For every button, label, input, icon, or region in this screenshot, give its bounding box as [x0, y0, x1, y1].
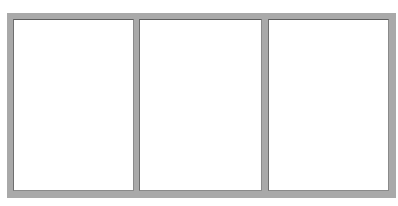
panel-middle — [139, 19, 262, 191]
panel-right — [268, 19, 389, 191]
three-panel-frame — [7, 13, 396, 198]
panel-left — [13, 19, 134, 191]
